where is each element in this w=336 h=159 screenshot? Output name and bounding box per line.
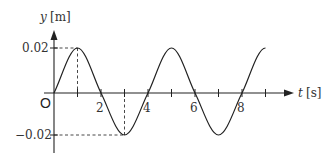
x-tick-label-4: 4 xyxy=(143,101,151,115)
y-tick-label-top: 0.02 xyxy=(22,41,49,55)
wave-graph: y [m] 0.02 −0.02 O 2 4 6 8 t [s] xyxy=(0,0,336,159)
x-tick-label-6: 6 xyxy=(190,101,198,115)
y-axis-arrow-icon xyxy=(51,30,58,40)
sine-curve xyxy=(54,48,266,135)
y-axis-variable-label: y xyxy=(39,10,47,24)
x-tick-label-8: 8 xyxy=(237,101,245,115)
x-axis-arrow-icon xyxy=(284,90,294,97)
origin-label: O xyxy=(40,95,51,111)
y-axis-unit-label: [m] xyxy=(50,10,71,24)
y-tick-label-bottom: −0.02 xyxy=(15,128,52,142)
x-axis-variable-label: t xyxy=(298,86,303,100)
x-axis-unit-label: [s] xyxy=(306,86,322,100)
x-tick-label-2: 2 xyxy=(96,101,104,115)
